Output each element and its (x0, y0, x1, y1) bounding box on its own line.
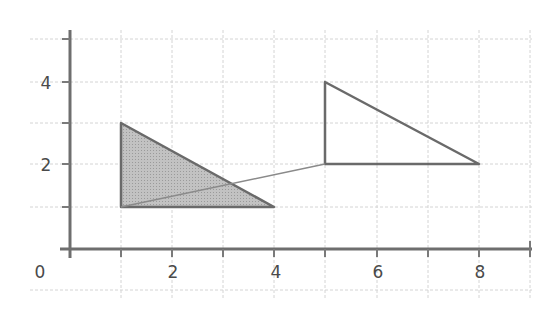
x-label-6: 6 (373, 262, 384, 282)
y-label-2: 2 (41, 155, 52, 175)
coordinate-grid: 0 2 4 6 8 2 4 (0, 0, 560, 309)
shapes (121, 82, 479, 207)
x-label-0: 0 (35, 262, 46, 282)
x-label-4: 4 (271, 262, 282, 282)
y-label-4: 4 (41, 73, 52, 93)
x-label-8: 8 (475, 262, 486, 282)
shaded-triangle (121, 123, 274, 207)
x-label-2: 2 (168, 262, 179, 282)
